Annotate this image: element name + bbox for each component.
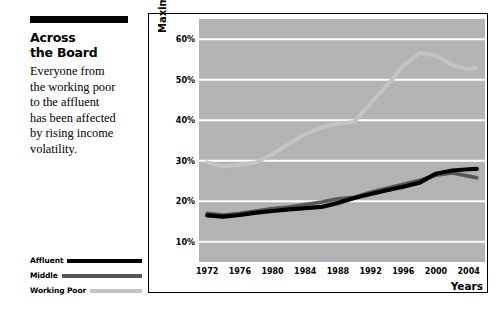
deck-line: by rising income [30, 126, 134, 142]
callout-headline: Across the Board [30, 30, 134, 60]
legend-label: Middle [30, 271, 58, 280]
y-tick-label: 10% [176, 237, 195, 246]
callout-deck: Everyone from the working poor to the af… [30, 64, 134, 158]
deck-line: volatility. [30, 142, 134, 158]
legend-swatch-working-poor [90, 289, 142, 293]
y-tick-label: 40% [176, 116, 195, 125]
decorative-rule [30, 16, 128, 23]
legend-swatch-middle [62, 274, 142, 278]
x-tick-label: 1972 [196, 267, 218, 276]
x-tick-label: 1988 [327, 267, 349, 276]
deck-line: has been affected [30, 111, 134, 127]
y-tick-label: 50% [176, 75, 195, 84]
x-tick-label: 2000 [425, 267, 447, 276]
legend-swatch-affluent [67, 259, 142, 263]
legend-label: Working Poor [30, 286, 86, 295]
legend-item-working-poor: Working Poor [30, 284, 142, 297]
line-chart-svg [199, 19, 485, 262]
legend-item-middle: Middle [30, 269, 142, 282]
y-axis-title: Maximum annual income swings [157, 0, 168, 33]
x-tick-label: 1976 [229, 267, 251, 276]
x-tick-label: 1984 [294, 267, 316, 276]
x-axis-title: Years [451, 280, 483, 292]
chart-panel: Maximum annual income swings 10%20%30%40… [148, 13, 488, 293]
x-tick-label: 1992 [359, 267, 381, 276]
x-tick-label: 2004 [458, 267, 480, 276]
plot-area: Maximum annual income swings 10%20%30%40… [199, 19, 485, 262]
legend-item-affluent: Affluent [30, 254, 142, 267]
deck-line: the working poor [30, 80, 134, 96]
x-tick-label: 1996 [392, 267, 414, 276]
deck-line: Everyone from [30, 64, 134, 80]
deck-line: to the affluent [30, 95, 134, 111]
y-tick-label: 60% [176, 35, 195, 44]
data-series [207, 53, 477, 217]
sidebar-callout: Across the Board Everyone from the worki… [30, 16, 134, 158]
series-line-middle [207, 173, 477, 215]
headline-line: the Board [30, 45, 134, 60]
legend-label: Affluent [30, 256, 63, 265]
chart-legend: Affluent Middle Working Poor [30, 254, 142, 299]
headline-line: Across [30, 30, 134, 45]
y-tick-label: 20% [176, 197, 195, 206]
x-tick-label: 1980 [261, 267, 283, 276]
series-line-working-poor [207, 53, 477, 166]
y-tick-label: 30% [176, 156, 195, 165]
